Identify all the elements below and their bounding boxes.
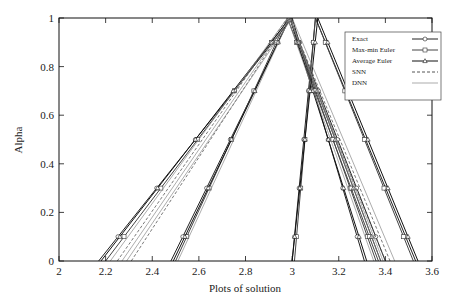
chart: 22.22.42.62.833.23.43.600.20.40.60.81 Pl… [0, 0, 452, 303]
y-tick-label: 0.6 [40, 109, 54, 121]
y-tick-label: 0 [49, 255, 55, 267]
series-dnn-line [122, 18, 381, 261]
legend-label-dnn: DNN [352, 79, 367, 87]
x-tick-label: 2 [56, 265, 62, 277]
x-tick-label: 2.4 [145, 265, 159, 277]
legend-label-snn: SNN [352, 68, 366, 76]
y-tick-label: 0.8 [40, 61, 54, 73]
legend-label-average: Average Euler [352, 57, 393, 65]
y-tick-label: 1 [49, 12, 55, 24]
legend: Exact Max-min Euler Average Euler SNN DN… [345, 32, 441, 100]
y-tick-label: 0.2 [40, 206, 54, 218]
x-tick-label: 2.6 [192, 265, 206, 277]
x-tick-label: 3.6 [425, 265, 439, 277]
x-tick-label: 2.8 [239, 265, 253, 277]
x-tick-label: 3 [289, 265, 295, 277]
legend-label-maxmin: Max-min Euler [352, 46, 396, 54]
x-axis-label: Plots of solution [209, 282, 282, 294]
y-tick-label: 0.4 [40, 158, 54, 170]
legend-label-exact: Exact [352, 35, 368, 43]
x-tick-label: 3.4 [379, 265, 393, 277]
x-tick-label: 2.2 [99, 265, 113, 277]
y-axis-label: Alpha [12, 126, 24, 153]
x-tick-label: 3.2 [332, 265, 346, 277]
